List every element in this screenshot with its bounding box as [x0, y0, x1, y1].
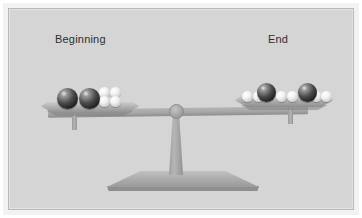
sphere-dark-left-1 [57, 88, 78, 109]
stand-base-plate [107, 171, 259, 187]
sphere-dark-right-1 [257, 83, 276, 102]
sphere-dark-right-2 [298, 83, 317, 102]
scale-scene: Beginning End [8, 8, 354, 210]
stand-column [169, 113, 183, 175]
sphere-white-right-1 [242, 91, 253, 102]
sphere-white-right-4 [287, 91, 298, 102]
label-beginning: Beginning [55, 33, 106, 45]
balance-scale-figure: Beginning End [0, 0, 362, 218]
sphere-white-left-3 [99, 96, 110, 107]
sphere-white-left-4 [110, 96, 121, 107]
sphere-white-right-6 [321, 91, 332, 102]
sphere-dark-left-2 [79, 88, 100, 109]
pan-left-beginning [41, 88, 139, 118]
sphere-white-right-3 [276, 91, 287, 102]
label-end: End [268, 33, 288, 45]
balance-pivot [169, 104, 184, 119]
pan-right-end [235, 82, 333, 112]
